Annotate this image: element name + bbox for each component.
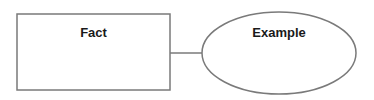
- example-label: Example: [202, 25, 356, 40]
- diagram-canvas: [0, 0, 374, 100]
- fact-label: Fact: [17, 25, 170, 40]
